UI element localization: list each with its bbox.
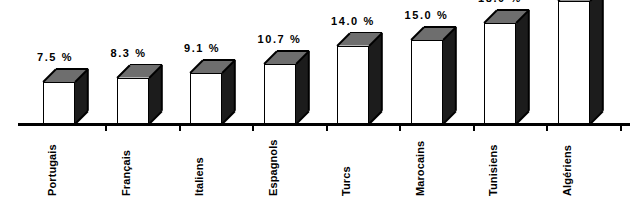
bar-value-label: 10.7 % (258, 34, 302, 45)
bar-top-face (190, 60, 235, 75)
bar-edge (234, 60, 236, 111)
bar-front-face (264, 64, 296, 124)
bar-edge (589, 0, 603, 1)
bar-side-face (296, 51, 309, 124)
bar-edge (497, 9, 529, 11)
bar-edge (557, 0, 571, 1)
bar-value-label: 14.0 % (331, 16, 375, 27)
bar-edge (56, 68, 88, 70)
x-axis-tick (399, 126, 401, 131)
bar (0, 0, 640, 202)
x-axis-category-label: Portugais (47, 144, 58, 196)
bar-edge (277, 50, 309, 52)
x-axis-category-label: Italiens (194, 157, 205, 196)
bar-edge (528, 10, 530, 111)
bar-edge (442, 26, 456, 40)
bar-side-face (443, 27, 456, 124)
x-axis-category-label: Tunisiens (488, 145, 499, 196)
bar-front-face (411, 40, 443, 124)
bar-edge (515, 10, 529, 24)
bar-top-face (43, 69, 88, 84)
bar (0, 0, 640, 202)
bar-side-face (222, 60, 235, 124)
x-axis-tick (105, 126, 107, 131)
bar (0, 0, 640, 202)
bar-edge (483, 10, 497, 24)
bar-edge (602, 0, 604, 111)
bar (0, 0, 640, 202)
bar-edge (424, 26, 456, 28)
bar-top-face (337, 33, 382, 48)
x-axis-tick (546, 126, 548, 131)
bar-edge (130, 64, 162, 66)
x-axis-tick (473, 126, 475, 131)
bar-edge (308, 51, 310, 111)
x-axis-tick (620, 126, 622, 131)
bar-edge (295, 51, 309, 65)
bar-edge (87, 69, 89, 111)
bar-edge (455, 27, 457, 111)
bar-value-label: 7.5 % (37, 52, 73, 63)
bar-value-label: 15.0 % (405, 10, 449, 21)
x-axis-category-label: Algériens (562, 145, 573, 196)
bar-side-face (516, 10, 529, 124)
bar-edge (263, 51, 277, 65)
x-axis-tick (326, 126, 328, 131)
bar-edge (42, 68, 56, 82)
bar-edge (381, 33, 383, 111)
bar-top-face (484, 10, 529, 25)
bar-front-face (484, 23, 516, 124)
bar-edge (336, 32, 350, 46)
bar-edge (148, 64, 162, 78)
bar-side-face (590, 0, 603, 124)
bar-front-face (43, 82, 75, 124)
bar (0, 0, 640, 202)
bar-edge (74, 68, 88, 82)
x-axis-category-label: Marocains (415, 141, 426, 196)
x-axis-line (18, 123, 630, 126)
bar (0, 0, 640, 202)
x-axis-tick (179, 126, 181, 131)
bar-side-face (369, 33, 382, 124)
bar-front-face (190, 73, 222, 124)
bar-value-label: 18.0 % (478, 0, 522, 4)
bar-edge (161, 65, 163, 111)
x-axis-category-label: Français (121, 150, 132, 196)
bar-top-face (264, 51, 309, 66)
bar-edge (368, 32, 382, 46)
bar-edge (116, 64, 130, 78)
bar (0, 0, 640, 202)
bar-edge (189, 59, 203, 73)
bar-value-label: 9.1 % (184, 43, 220, 54)
bar-edge (221, 59, 235, 73)
bar-top-face (117, 65, 162, 80)
bar-edge (410, 26, 424, 40)
bar-front-face (558, 1, 590, 124)
bar (0, 0, 640, 202)
bar-front-face (337, 46, 369, 124)
bar-value-label: 8.3 % (111, 48, 147, 59)
bar-edge (203, 59, 235, 61)
bar-side-face (75, 69, 88, 124)
bar-top-face (411, 27, 456, 42)
bar-edge (350, 32, 382, 34)
bar-top-face (558, 0, 603, 3)
bar-side-face (149, 65, 162, 124)
x-axis-category-label: Espagnols (268, 139, 279, 196)
bar-front-face (117, 78, 149, 124)
x-axis-category-label: Turcs (341, 166, 352, 196)
bar-chart: 7.5 %Portugais8.3 %Français9.1 %Italiens… (0, 0, 640, 202)
x-axis-tick (252, 126, 254, 131)
